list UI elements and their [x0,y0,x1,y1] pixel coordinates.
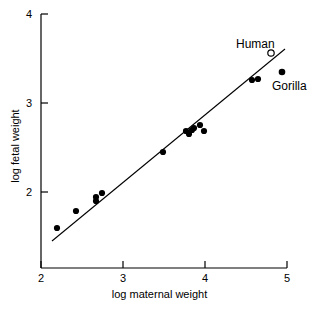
data-point [93,194,99,200]
data-point [160,149,166,155]
scatter-plot-figure: 4 3 2 2 3 4 5 log [0,0,319,314]
annotation-human: Human [236,37,275,51]
axes [41,14,287,268]
data-point-gorilla [279,69,286,76]
data-point [191,125,197,131]
data-point [197,122,203,128]
annotation-gorilla: Gorilla [272,79,307,93]
x-ticklabel-4: 4 [202,272,208,284]
data-point [54,225,60,231]
data-point [255,76,261,82]
y-ticklabel-2: 2 [26,186,32,198]
x-ticklabel-3: 3 [120,272,126,284]
data-points [54,69,285,231]
y-axis-label: log fetal weight [9,91,21,201]
x-axis-label: log maternal weight [0,288,319,300]
x-axis-ticks [41,261,287,268]
x-ticklabel-5: 5 [284,272,290,284]
y-ticklabel-4: 4 [26,8,32,20]
data-point [73,208,79,214]
y-ticklabel-3: 3 [26,97,32,109]
data-point [201,128,207,134]
data-point [249,77,255,83]
y-axis-ticks [41,14,48,192]
x-ticklabel-2: 2 [38,272,44,284]
data-point [99,190,105,196]
